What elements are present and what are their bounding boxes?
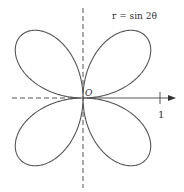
- polar-rose-diagram: 1 O r = sin 2θ: [0, 0, 184, 192]
- arrow-head-icon: [168, 95, 176, 101]
- tick-label: 1: [158, 109, 164, 120]
- equation-label: r = sin 2θ: [112, 11, 157, 21]
- origin-label: O: [85, 88, 93, 98]
